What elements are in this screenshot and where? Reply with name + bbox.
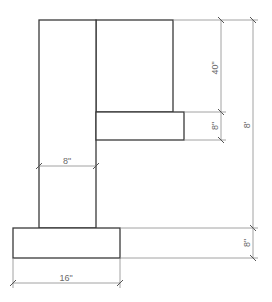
dimension-base-thickness: 8"	[242, 228, 256, 261]
dimension-label-base-thickness: 8"	[242, 239, 252, 247]
shelf	[96, 112, 184, 140]
dimension-shelf-thickness: 8"	[210, 112, 224, 143]
dimension-label-column-width: 8"	[63, 156, 71, 166]
vertical-column	[39, 20, 96, 228]
dimension-label-upper-box-height: 40"	[210, 61, 220, 74]
dimension-label-shelf-thickness: 8"	[210, 122, 220, 130]
dimension-label-base-width: 16"	[59, 273, 72, 283]
upper-box	[96, 20, 173, 112]
dimension-label-overall-height: 8'	[242, 121, 252, 128]
drawing-canvas: 40" 8" 8' 8" 8" 16"	[0, 0, 272, 302]
dimension-overall-height: 8'	[242, 17, 256, 231]
dimension-upper-box-height: 40"	[210, 17, 224, 115]
dimension-base-width: 16"	[10, 273, 123, 286]
base-footing	[13, 228, 120, 258]
